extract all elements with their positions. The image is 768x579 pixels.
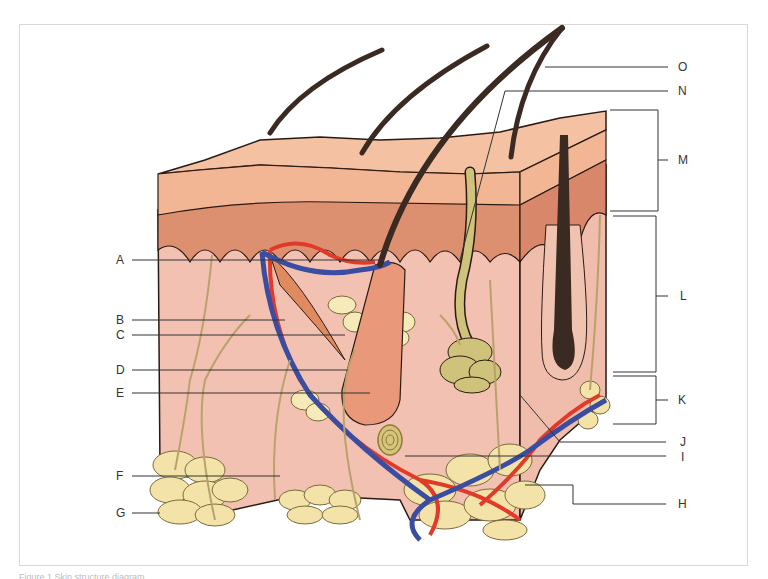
label-i: I xyxy=(681,451,684,463)
fat-cluster-mid xyxy=(279,485,361,524)
label-b: B xyxy=(116,314,124,326)
label-l: L xyxy=(680,290,687,302)
pacinian-corpuscle xyxy=(378,425,402,455)
label-d: D xyxy=(116,364,125,376)
skin-diagram xyxy=(0,0,768,579)
label-h: H xyxy=(678,498,687,510)
label-n: N xyxy=(678,85,687,97)
label-a: A xyxy=(116,254,124,266)
label-e: E xyxy=(116,387,124,399)
label-c: C xyxy=(116,329,125,341)
figure-caption: Figure 1 Skin structure diagram xyxy=(19,572,145,579)
label-k: K xyxy=(678,394,686,406)
label-m: M xyxy=(678,154,688,166)
label-j: J xyxy=(680,436,686,448)
label-g: G xyxy=(116,507,125,519)
label-o: O xyxy=(678,61,687,73)
label-f: F xyxy=(116,470,123,482)
